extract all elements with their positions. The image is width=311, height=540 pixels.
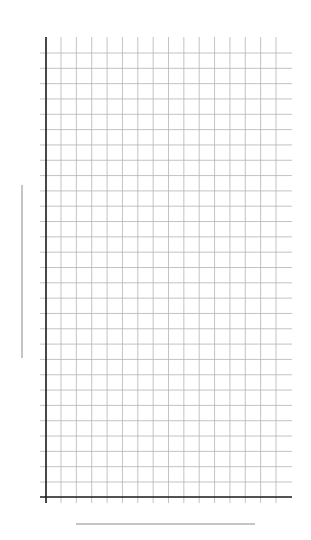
empty-grid-chart [0, 0, 311, 540]
chart-gridlines [40, 37, 292, 503]
